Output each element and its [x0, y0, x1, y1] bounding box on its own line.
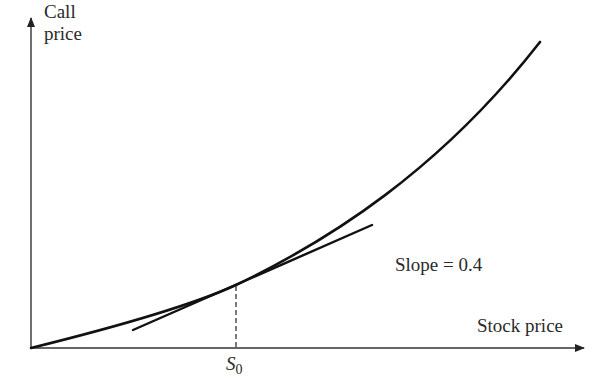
call-price-curve [31, 42, 540, 348]
s0-label: S0 [226, 353, 243, 381]
x-axis-label: Stock price [477, 315, 563, 337]
y-axis-label-line1: Call [44, 1, 82, 23]
y-axis-label-line2: price [44, 23, 82, 45]
tangent-line [133, 225, 372, 330]
s0-label-main: S [226, 353, 236, 374]
slope-annotation: Slope = 0.4 [395, 254, 482, 276]
s0-label-subscript: 0 [236, 362, 243, 377]
y-axis-label: Call price [44, 1, 82, 45]
